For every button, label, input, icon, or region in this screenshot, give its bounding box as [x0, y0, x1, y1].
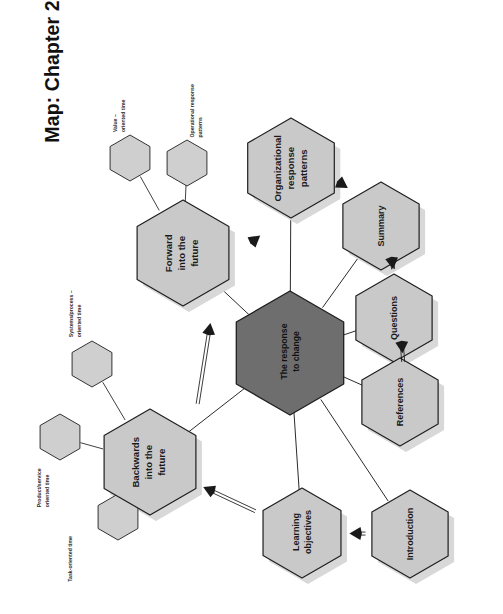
- arrow-rail: [212, 489, 256, 510]
- leaf-edge-systems-process-oriented-time: [103, 382, 125, 420]
- arrow-head-learning-objectives-to-backwards-into-the-future: [203, 486, 216, 498]
- edge-response-to-change-to-references: [341, 376, 364, 386]
- arrow-rail: [199, 332, 210, 404]
- arrow-head-forward-into-the-future-to-organizational-response: [248, 236, 261, 248]
- leaf-edge-product-service-oriented-time: [80, 443, 103, 449]
- arrow-head-backwards-into-the-future-to-forward-into-the-future: [202, 323, 215, 335]
- edge-response-to-change-to-summary: [323, 258, 358, 307]
- node-layer: [104, 118, 448, 578]
- edge-response-to-change-to-learning-objectives: [294, 409, 300, 493]
- leaf-node-operational-response-patterns[interactable]: [167, 140, 207, 186]
- leaf-node-systems-process-oriented-time[interactable]: [72, 341, 112, 387]
- mind-map-canvas: [0, 0, 503, 614]
- arrow-head-introduction-to-learning-objectives: [349, 527, 362, 540]
- arrow-rail: [211, 492, 255, 513]
- leaf-node-product-service-oriented-time[interactable]: [40, 414, 80, 460]
- edge-response-to-change-to-questions: [343, 331, 357, 336]
- node-response-to-change[interactable]: [236, 291, 343, 415]
- diagram-page: Map: Chapter 2 Value – oriented timeOper…: [0, 0, 503, 614]
- edge-response-to-change-to-backwards-into-the-future: [188, 387, 246, 432]
- leaf-edge-value-oriented-time: [140, 176, 159, 210]
- arrow-rail: [196, 332, 207, 404]
- leaf-node-value-oriented-time[interactable]: [110, 135, 150, 181]
